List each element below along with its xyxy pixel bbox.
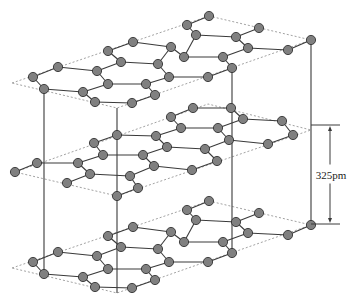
carbon-bond xyxy=(196,35,236,37)
carbon-atom xyxy=(149,161,158,170)
carbon-atom xyxy=(254,23,263,32)
carbon-atom xyxy=(179,237,188,246)
carbon-atom xyxy=(92,66,101,75)
carbon-atom xyxy=(89,138,98,147)
carbon-bond xyxy=(154,166,192,170)
carbon-atom xyxy=(153,244,162,253)
carbon-atom xyxy=(133,183,142,192)
carbon-atom xyxy=(103,79,112,88)
arrowhead-down-icon xyxy=(328,218,332,223)
carbon-atom xyxy=(203,72,212,81)
carbon-bond xyxy=(121,247,158,249)
carbon-atom xyxy=(263,139,272,148)
carbon-atom xyxy=(39,84,48,93)
carbon-atom xyxy=(141,264,150,273)
carbon-atom xyxy=(182,205,191,214)
carbon-atom xyxy=(204,11,213,20)
carbon-atom xyxy=(283,230,292,239)
carbon-bond xyxy=(95,287,132,288)
carbon-atom xyxy=(98,150,107,159)
carbon-atom xyxy=(28,257,37,266)
carbon-atom xyxy=(187,165,196,174)
carbon-atom xyxy=(191,215,200,224)
carbon-atom xyxy=(288,130,297,139)
carbon-atom xyxy=(243,228,252,237)
carbon-atom xyxy=(90,282,99,291)
carbon-atom xyxy=(28,72,37,81)
carbon-atom xyxy=(218,52,227,61)
carbon-bond xyxy=(58,252,97,256)
carbon-atom xyxy=(203,257,212,266)
spacing-label: 325pm xyxy=(316,169,347,181)
carbon-bond xyxy=(44,89,83,92)
carbon-bond xyxy=(248,48,288,50)
carbon-atom xyxy=(283,45,292,54)
carbon-atom xyxy=(138,150,147,159)
carbon-atom xyxy=(227,248,236,257)
carbon-atom xyxy=(277,116,286,125)
carbon-bond xyxy=(90,174,130,176)
carbon-atom xyxy=(238,114,247,123)
carbon-bond xyxy=(167,147,205,149)
carbon-atom xyxy=(191,30,200,39)
carbon-atom xyxy=(103,46,112,55)
carbon-atom xyxy=(176,123,185,132)
carbon-atom xyxy=(188,103,197,112)
carbon-atom xyxy=(128,222,137,231)
carbon-atom xyxy=(112,130,121,139)
carbon-atom xyxy=(103,231,112,240)
carbon-bond xyxy=(229,140,268,144)
carbon-bond xyxy=(248,233,288,235)
carbon-atom xyxy=(224,135,233,144)
carbon-bond xyxy=(44,274,83,277)
carbon-atom xyxy=(231,217,240,226)
carbon-atom xyxy=(164,257,173,266)
carbon-bond xyxy=(121,62,158,64)
carbon-atom xyxy=(166,227,175,236)
carbon-atom xyxy=(166,42,175,51)
carbon-atom xyxy=(204,196,213,205)
carbon-atom xyxy=(53,62,62,71)
carbon-atom xyxy=(10,167,19,176)
carbon-bond xyxy=(133,42,171,47)
carbon-atom xyxy=(153,59,162,68)
carbon-atom xyxy=(112,191,121,200)
bottom-layer xyxy=(28,196,315,292)
carbon-atom xyxy=(182,20,191,29)
carbon-atom xyxy=(90,97,99,106)
carbon-atom xyxy=(212,156,221,165)
carbon-bond xyxy=(133,227,171,232)
carbon-atom xyxy=(306,220,315,229)
carbon-atom xyxy=(78,87,87,96)
carbon-atom xyxy=(53,247,62,256)
carbon-bond xyxy=(95,102,132,103)
carbon-bond xyxy=(117,135,156,136)
carbon-atom xyxy=(92,251,101,260)
carbon-atom xyxy=(213,123,222,132)
carbon-atom xyxy=(150,90,159,99)
carbon-atom xyxy=(116,57,125,66)
carbon-bond xyxy=(58,67,97,71)
carbon-atom xyxy=(116,242,125,251)
carbon-atom xyxy=(103,264,112,273)
carbon-bond xyxy=(243,119,282,121)
carbon-bond xyxy=(196,220,236,222)
carbon-atom xyxy=(32,158,41,167)
carbon-atom xyxy=(306,35,315,44)
carbon-atom xyxy=(231,32,240,41)
carbon-atom xyxy=(179,52,188,61)
carbon-atom xyxy=(226,103,235,112)
arrowhead-up-icon xyxy=(328,126,332,131)
carbon-atom xyxy=(73,158,82,167)
carbon-atom xyxy=(62,178,71,187)
carbon-atom xyxy=(128,37,137,46)
carbon-atom xyxy=(141,79,150,88)
carbon-atom xyxy=(162,142,171,151)
carbon-atom xyxy=(127,98,136,107)
interlayer-spacing-scale: 325pm xyxy=(311,125,347,224)
carbon-atom xyxy=(151,131,160,140)
carbon-atom xyxy=(254,208,263,217)
carbon-atom xyxy=(150,275,159,284)
carbon-atom xyxy=(164,72,173,81)
carbon-atom xyxy=(39,269,48,278)
